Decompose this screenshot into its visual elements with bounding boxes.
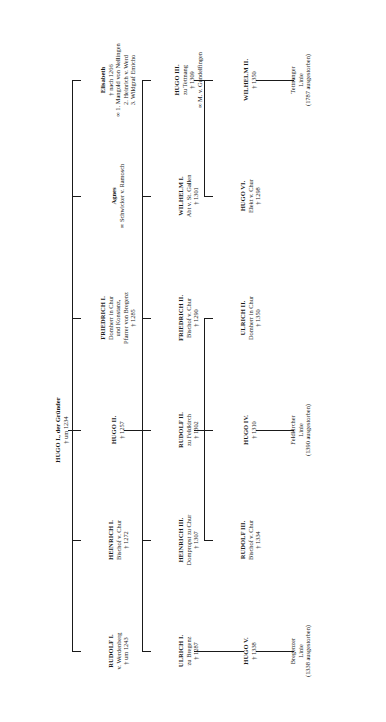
person-hugo-5: HUGO V.† 1338 <box>242 637 257 664</box>
lineage-tettnanger-linie-line-0: Tettnanger <box>289 54 297 106</box>
person-agnes: Agnes∞ Schwicker v. Ramosch <box>110 164 125 228</box>
person-rudolf-1-line-1: v. Werdenberg <box>114 633 122 670</box>
person-wilhelm-2: WILHELM II.† 1350 <box>242 59 257 101</box>
connector-bar-hugo3-children <box>204 80 205 196</box>
person-hugo-3-line-2: † 1309 <box>188 52 196 108</box>
connector-tick-g2-2 <box>142 430 151 431</box>
person-ulrich-2-line-0: ULRICH II. <box>239 296 247 340</box>
person-elisabeth-line-1: † nach 1266 <box>107 43 115 117</box>
person-ulrich-1: ULRICH I.zu Bregenz† 1287 <box>177 635 200 667</box>
person-ulrich-1-line-0: ULRICH I. <box>177 635 185 667</box>
person-rudolf-1-line-0: RUDOLF I. <box>107 633 115 670</box>
person-rudolf-3-line-1: Bischof v. Chur <box>246 520 254 560</box>
person-elisabeth-line-4: 3. Wildgraf Emicho <box>129 43 137 117</box>
person-heinrich-1: HEINRICH I.Bischof v. Chur† 1272 <box>107 520 130 560</box>
person-wilhelm-2-line-0: WILHELM II. <box>242 59 250 101</box>
connector-bar-rudolf2-children <box>204 318 205 540</box>
person-heinrich-1-line-0: HEINRICH I. <box>107 520 115 560</box>
person-heinrich-3-line-2: † 1307 <box>192 515 200 566</box>
connector-hugo2-stub <box>124 430 142 431</box>
person-rudolf-2-line-0: RUDOLF II. <box>177 412 185 448</box>
person-elisabeth: Elisabeth† nach 1266∞ 1. Mangold von Nel… <box>99 43 137 117</box>
person-ulrich-2: ULRICH II.Domherr in Chur† 1350 <box>239 296 262 340</box>
connector-tick-rudolf2-child-0 <box>204 540 213 541</box>
person-elisabeth-line-0: Elisabeth <box>99 43 107 117</box>
person-heinrich-1-line-2: † 1272 <box>122 520 130 560</box>
person-hugo-3-line-1: zu Tettnang <box>181 52 189 108</box>
person-friedrich-1: FRIEDRICH I.Domherr in Churund Konstanz,… <box>99 292 137 344</box>
connector-tick-g1-3 <box>72 318 81 319</box>
connector-tick-g2-4 <box>142 196 151 197</box>
person-hugo-3-line-3: ∞ M. v. Gundelfingen <box>196 52 204 108</box>
person-friedrich-1-line-4: † 1285 <box>129 292 137 344</box>
person-rudolf-3-line-0: RUDOLF III. <box>239 520 247 560</box>
person-hugo-3-line-0: HUGO III. <box>173 52 181 108</box>
lineage-feldkircher-linie-line-1: Linie <box>296 404 304 456</box>
person-friedrich-2-line-0: FRIEDRICH II. <box>177 295 185 341</box>
connector-bar-generation1 <box>72 80 73 651</box>
person-hugo-4-line-1: † 1310 <box>250 415 258 445</box>
lineage-feldkircher-linie-line-2: (1390 ausgestorben) <box>304 404 312 456</box>
person-heinrich-3: HEINRICH III.Dompropst zu Chur† 1307 <box>177 515 200 566</box>
person-rudolf-1: RUDOLF I.v. Werdenberg† um 1243 <box>107 633 130 670</box>
person-friedrich-1-line-3: Pfarrer von Bregenz <box>122 292 130 344</box>
person-hugo-1-line-0: HUGO I., der Gründer <box>54 397 62 462</box>
connector-tick-hugo3-child-0 <box>204 80 213 81</box>
person-ulrich-2-line-2: † 1350 <box>254 296 262 340</box>
person-heinrich-3-line-1: Dompropst zu Chur <box>184 515 192 566</box>
person-hugo-5-line-0: HUGO V. <box>242 637 250 664</box>
person-friedrich-2: FRIEDRICH II.Bischof v. Chur† 1290 <box>177 295 200 341</box>
connector-tick-g1-1 <box>72 540 81 541</box>
person-hugo-2-line-0: HUGO II. <box>110 416 118 445</box>
connector-tick-hugo3-child-1 <box>204 196 213 197</box>
connector-tick-g1-0 <box>72 651 81 652</box>
person-friedrich-1-line-0: FRIEDRICH I. <box>99 292 107 344</box>
connector-tick-g2-3 <box>142 318 151 319</box>
person-rudolf-2-line-1: zu Feldkirch <box>184 412 192 448</box>
connector-tick-g2-0 <box>142 651 151 652</box>
person-elisabeth-line-2: ∞ 1. Mangold von Nellingen <box>114 43 122 117</box>
family-tree-diagram: HUGO I., der Gründer† um 1234RUDOLF I.v.… <box>0 0 386 722</box>
person-hugo-3: HUGO III.zu Tettnang† 1309∞ M. v. Gundel… <box>173 52 203 108</box>
person-agnes-line-0: Agnes <box>110 164 118 228</box>
person-rudolf-1-line-2: † um 1243 <box>122 633 130 670</box>
person-ulrich-1-line-2: † 1287 <box>192 635 200 667</box>
connector-tick-g1-5 <box>72 80 81 81</box>
person-wilhelm-1-line-2: † 1301 <box>192 175 200 218</box>
person-rudolf-2: RUDOLF II.zu Feldkirch† 1302 <box>177 412 200 448</box>
person-wilhelm-2-line-1: † 1350 <box>250 59 258 101</box>
person-wilhelm-1-line-0: WILHELM I. <box>177 175 185 218</box>
connector-tick-rudolf2-child-1 <box>204 430 213 431</box>
connector-tick-rudolf2-child-2 <box>204 318 213 319</box>
lineage-bregenzer-linie-line-0: Bregenzer <box>289 625 297 677</box>
person-wilhelm-1-line-1: Abt v. St. Gallen <box>184 175 192 218</box>
person-hugo-2-line-1: † 1257 <box>118 416 126 445</box>
person-rudolf-2-line-2: † 1302 <box>192 412 200 448</box>
person-friedrich-1-line-2: und Konstanz, <box>114 292 122 344</box>
person-heinrich-1-line-1: Bischof v. Chur <box>114 520 122 560</box>
person-rudolf-3-line-2: † 1334 <box>254 520 262 560</box>
connector-tick-g1-4 <box>72 196 81 197</box>
person-hugo-1-line-1: † um 1234 <box>62 397 70 462</box>
lineage-bregenzer-linie: BregenzerLinie(1338 ausgestorben) <box>289 625 312 677</box>
lineage-feldkircher-linie-line-0: Feldkircher <box>289 404 297 456</box>
person-hugo-6: HUGO VI.Elekt v. Chur† 1298 <box>239 179 262 213</box>
person-rudolf-3: RUDOLF III.Bischof v. Chur† 1334 <box>239 520 262 560</box>
person-hugo-6-line-1: Elekt v. Chur <box>246 179 254 213</box>
person-friedrich-2-line-2: † 1290 <box>192 295 200 341</box>
person-hugo-5-line-1: † 1338 <box>250 637 258 664</box>
person-agnes-line-1: ∞ Schwicker v. Ramosch <box>118 164 126 228</box>
lineage-bregenzer-linie-line-1: Linie <box>296 625 304 677</box>
connector-tick-g2-1 <box>142 540 151 541</box>
lineage-feldkircher-linie: FeldkircherLinie(1390 ausgestorben) <box>289 404 312 456</box>
person-hugo-4: HUGO IV.† 1310 <box>242 415 257 445</box>
person-ulrich-1-line-1: zu Bregenz <box>184 635 192 667</box>
person-hugo-1: HUGO I., der Gründer† um 1234 <box>54 397 69 462</box>
person-hugo-4-line-0: HUGO IV. <box>242 415 250 445</box>
person-hugo-6-line-0: HUGO VI. <box>239 179 247 213</box>
person-friedrich-1-line-1: Domherr in Chur <box>107 292 115 344</box>
connector-tick-g1-2 <box>72 430 81 431</box>
person-heinrich-3-line-0: HEINRICH III. <box>177 515 185 566</box>
person-friedrich-2-line-1: Bischof v. Chur <box>184 295 192 341</box>
lineage-bregenzer-linie-line-2: (1338 ausgestorben) <box>304 625 312 677</box>
